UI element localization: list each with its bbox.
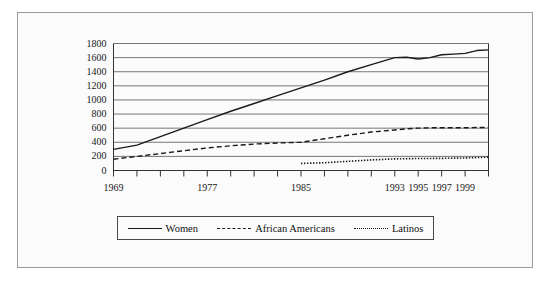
y-tick-label: 800 [73, 109, 107, 119]
y-tick-label: 1000 [73, 95, 107, 105]
x-tick-label: 1969 [94, 183, 134, 193]
y-tick-label: 1200 [73, 81, 107, 91]
x-tick-label: 1999 [445, 183, 485, 193]
legend-label: Latinos [392, 223, 424, 234]
data-series-group [114, 50, 489, 164]
y-tick-label: 200 [73, 151, 107, 161]
legend-label: African Americans [255, 223, 335, 234]
legend-line-dashed-icon [217, 228, 251, 229]
y-tick-label: 1800 [73, 39, 107, 49]
series-line-african-americans [114, 127, 489, 159]
series-line-latinos [301, 157, 489, 163]
legend-item-latinos: Latinos [354, 223, 424, 234]
y-tick-label: 400 [73, 137, 107, 147]
y-tick-label: 1600 [73, 53, 107, 63]
chart-legend: Women African Americans Latinos [117, 216, 434, 240]
legend-item-women: Women [128, 223, 198, 234]
legend-line-dotted-icon [354, 228, 388, 229]
y-tick-label: 1400 [73, 67, 107, 77]
y-tick-label: 0 [73, 166, 107, 176]
axes [114, 44, 489, 176]
legend-line-solid-icon [128, 228, 162, 229]
x-tick-marks [114, 171, 489, 177]
y-tick-label: 600 [73, 123, 107, 133]
x-tick-label: 1977 [187, 183, 227, 193]
gridlines [114, 44, 489, 171]
legend-item-african-americans: African Americans [217, 223, 335, 234]
x-tick-label: 1985 [281, 183, 321, 193]
legend-label: Women [166, 223, 198, 234]
chart-screenshot: 180016001400120010008006004002000 196919… [0, 0, 553, 282]
